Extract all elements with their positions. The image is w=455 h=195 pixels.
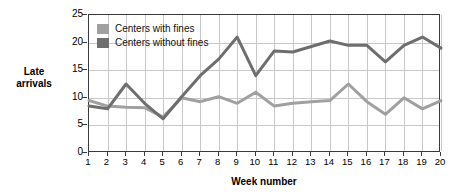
y-tick-mark — [82, 42, 87, 43]
x-tick-label: 14 — [319, 156, 339, 167]
x-tick-label: 16 — [356, 156, 376, 167]
y-tick-label: 10 — [61, 91, 83, 102]
x-tick-label: 2 — [97, 156, 117, 167]
legend-label-centers-with-fines: Centers with fines — [115, 23, 194, 34]
x-tick-label: 6 — [171, 156, 191, 167]
y-tick-mark — [82, 14, 87, 15]
x-tick-label: 18 — [393, 156, 413, 167]
x-tick-label: 8 — [208, 156, 228, 167]
y-tick-mark — [82, 69, 87, 70]
x-tick-label: 19 — [411, 156, 431, 167]
x-tick-label: 4 — [134, 156, 154, 167]
x-tick-label: 15 — [337, 156, 357, 167]
legend: Centers with fines Centers without fines — [97, 23, 208, 51]
legend-item-0: Centers with fines — [97, 23, 208, 34]
legend-swatch-centers-without-fines — [97, 38, 109, 48]
x-tick-label: 3 — [115, 156, 135, 167]
plot-area: Centers with fines Centers without fines — [88, 14, 440, 152]
y-tick-mark — [82, 152, 87, 153]
y-tick-label: 15 — [61, 63, 83, 74]
y-tick-label: 5 — [61, 118, 83, 129]
legend-item-1: Centers without fines — [97, 37, 208, 48]
gridline-vertical — [441, 15, 442, 151]
x-tick-label: 11 — [263, 156, 283, 167]
y-tick-label: 20 — [61, 36, 83, 47]
x-tick-label: 10 — [245, 156, 265, 167]
y-tick-mark — [82, 124, 87, 125]
legend-label-centers-without-fines: Centers without fines — [115, 37, 208, 48]
y-axis-title-line-2: arrivals — [6, 78, 62, 90]
legend-swatch-centers-with-fines — [97, 24, 109, 34]
x-tick-label: 5 — [152, 156, 172, 167]
x-tick-label: 12 — [282, 156, 302, 167]
x-tick-label: 9 — [226, 156, 246, 167]
y-axis-title-line-1: Late — [6, 66, 62, 78]
chart-container: Late arrivals 0510152025 123456789101112… — [0, 0, 455, 195]
x-tick-label: 1 — [78, 156, 98, 167]
x-axis-title: Week number — [88, 176, 440, 187]
y-axis-title: Late arrivals — [6, 66, 62, 90]
y-tick-mark — [82, 97, 87, 98]
x-tick-label: 20 — [430, 156, 450, 167]
x-tick-label: 13 — [300, 156, 320, 167]
x-tick-label: 7 — [189, 156, 209, 167]
x-tick-label: 17 — [374, 156, 394, 167]
y-tick-label: 25 — [61, 8, 83, 19]
